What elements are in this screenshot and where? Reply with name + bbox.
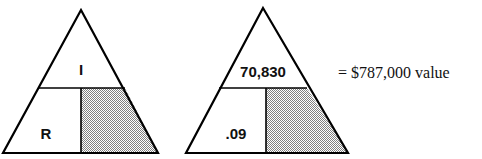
rate-value: .09 <box>216 126 256 141</box>
irv-diagram: I R 70,830 .09 = $787,000 value <box>0 0 482 159</box>
shaded-value-cell <box>81 88 158 153</box>
formula-triangle <box>3 10 158 153</box>
example-triangle <box>186 8 348 153</box>
rate-label: R <box>36 126 56 141</box>
result-equation: = $787,000 value <box>338 64 450 82</box>
income-label: I <box>71 62 91 77</box>
shaded-value-cell <box>266 88 348 153</box>
income-value: 70,830 <box>228 64 298 79</box>
